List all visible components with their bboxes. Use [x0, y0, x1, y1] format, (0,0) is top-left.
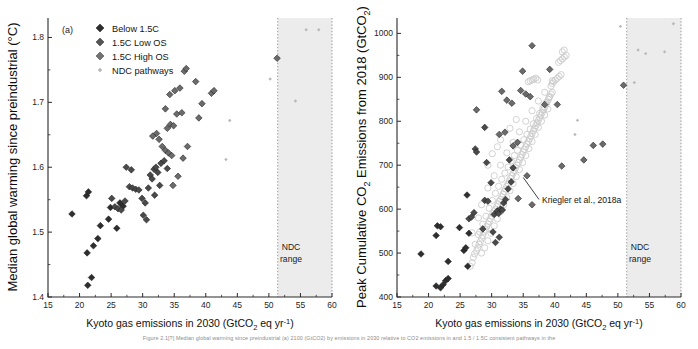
data-point: [523, 118, 529, 124]
data-point: [535, 98, 541, 104]
svg-text:25: 25: [455, 300, 465, 310]
data-point: [485, 238, 491, 244]
data-point: [558, 163, 565, 170]
data-point: [529, 201, 536, 208]
data-point: [456, 224, 463, 231]
data-point: [599, 141, 606, 148]
ndc-range-label-line2-a: range: [280, 254, 302, 264]
svg-text:30: 30: [138, 300, 148, 310]
svg-text:1.6: 1.6: [32, 162, 44, 172]
svg-text:20: 20: [424, 300, 434, 310]
data-point: [482, 245, 488, 251]
legend-item-below-15c[interactable]: Below 1.5C: [96, 24, 159, 34]
data-point: [162, 106, 169, 113]
data-point: [491, 173, 497, 179]
data-point: [485, 185, 491, 191]
data-point: [558, 72, 564, 78]
data-point: [483, 159, 490, 166]
data-point: [573, 133, 576, 136]
diamond-icon: [96, 24, 104, 32]
data-point: [175, 173, 182, 180]
data-point: [170, 182, 177, 189]
figure-container: 152025303540455055601.41.51.61.71.8 (a) …: [0, 0, 698, 349]
data-point: [95, 235, 102, 242]
data-point: [492, 239, 499, 246]
legend-label-0: Below 1.5C: [112, 24, 159, 34]
data-point: [499, 176, 505, 182]
data-point: [151, 192, 158, 199]
data-point: [491, 223, 497, 229]
data-point: [88, 274, 95, 281]
data-point: [516, 129, 522, 135]
data-point: [505, 164, 511, 170]
data-point: [90, 242, 97, 249]
legend-item-ndc-pathways[interactable]: NDC pathways: [98, 66, 174, 76]
annotation-leader-line: [523, 177, 539, 199]
data-point: [497, 162, 503, 168]
annotation-label: Kriegler et al., 2018a: [542, 195, 622, 205]
data-point: [192, 78, 199, 85]
svg-text:30: 30: [487, 300, 497, 310]
legend-label-3: NDC pathways: [112, 66, 174, 76]
legend-item-15c-low-os[interactable]: 1.5C Low OS: [96, 38, 167, 48]
data-point: [156, 182, 163, 189]
data-point: [519, 68, 526, 75]
legend-item-15c-high-os[interactable]: 1.5C High OS: [96, 52, 169, 62]
data-point: [494, 144, 500, 150]
data-point: [173, 111, 180, 118]
data-point: [496, 183, 502, 189]
data-point: [418, 251, 425, 258]
x-axis-title-a-text: Kyoto gas emissions in 2030 (GtCO: [86, 317, 253, 329]
data-point: [489, 151, 495, 157]
data-point: [69, 211, 76, 218]
data-point: [228, 119, 231, 122]
svg-text:900: 900: [379, 72, 393, 82]
svg-text:20: 20: [75, 300, 85, 310]
data-point: [505, 186, 512, 193]
x-axis-title-a: Kyoto gas emissions in 2030 (GtCO2 eq yr…: [86, 317, 294, 332]
data-point: [557, 58, 563, 64]
data-point: [515, 195, 522, 202]
panel-b-svg: 1520253035404550556040050060070080090010…: [349, 0, 698, 349]
svg-text:15: 15: [43, 300, 53, 310]
data-point: [464, 263, 471, 270]
ndc-range-label-line1-b: NDC: [631, 242, 650, 252]
svg-text:50: 50: [613, 300, 623, 310]
ndc-range-label-line1-a: NDC: [282, 242, 301, 252]
data-point: [507, 125, 513, 131]
data-point: [556, 73, 562, 79]
svg-text:1.4: 1.4: [32, 292, 44, 302]
svg-text:45: 45: [233, 300, 243, 310]
y-axis-title-a: Median global warming since preindustria…: [5, 23, 20, 292]
data-point: [559, 49, 565, 55]
kriegler-annotation: Kriegler et al., 2018a: [523, 177, 621, 204]
dot-icon: [98, 68, 102, 72]
svg-text:800: 800: [379, 116, 393, 126]
data-point: [481, 124, 488, 131]
diamond-icon: [96, 38, 104, 46]
data-point: [84, 282, 91, 289]
panel-a: 152025303540455055601.41.51.61.71.8 (a) …: [0, 0, 349, 349]
data-point: [97, 222, 104, 229]
data-point: [619, 25, 622, 28]
data-point: [196, 115, 203, 122]
svg-text:60: 60: [327, 300, 337, 310]
data-point: [108, 195, 115, 202]
data-point: [554, 75, 560, 81]
data-point: [581, 157, 588, 164]
legend-a: Below 1.5C 1.5C Low OS 1.5C High OS NDC …: [96, 24, 174, 76]
data-point: [475, 215, 481, 221]
data-point: [513, 116, 519, 122]
legend-label-2: 1.5C High OS: [112, 52, 169, 62]
svg-text:50: 50: [264, 300, 274, 310]
data-point: [164, 165, 171, 172]
diamond-icon: [96, 52, 104, 60]
svg-text:55: 55: [296, 300, 306, 310]
data-point: [546, 66, 553, 73]
svg-text:55: 55: [645, 300, 655, 310]
svg-text:45: 45: [582, 300, 592, 310]
data-point: [105, 216, 112, 223]
data-point: [445, 258, 452, 265]
svg-text:600: 600: [379, 204, 393, 214]
data-point: [145, 185, 152, 192]
